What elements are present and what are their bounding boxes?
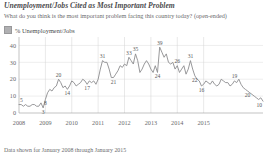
x-tick-label: 2008 bbox=[13, 119, 25, 126]
y-axis: 010203040 bbox=[10, 37, 19, 116]
vertical-grid-group bbox=[45, 37, 203, 113]
y-tick-label: 0 bbox=[13, 109, 16, 116]
data-point-label: 20 bbox=[56, 72, 62, 78]
chart-subtitle: What do you think is the most important … bbox=[4, 12, 264, 20]
x-tick-label: 2010 bbox=[66, 119, 78, 126]
data-point-label: 8 bbox=[44, 100, 47, 106]
x-tick-label: 2013 bbox=[145, 119, 157, 126]
data-point-labels: 53820141731213335392426223116192010 bbox=[20, 40, 262, 115]
chart-page: Unemployment/Jobs Cited as Most Importan… bbox=[0, 0, 266, 161]
data-point-label: 22 bbox=[192, 77, 198, 83]
chart-footnote: Data shown for January 2008 through Janu… bbox=[4, 147, 126, 153]
x-tick-label: 2015 bbox=[197, 119, 209, 126]
data-point-label: 20 bbox=[245, 92, 251, 98]
x-tick-label: 2012 bbox=[118, 119, 130, 126]
data-point-label: 5 bbox=[20, 97, 23, 103]
data-point-label: 3 bbox=[42, 109, 45, 115]
data-point-label: 17 bbox=[84, 85, 90, 91]
data-point-label: 16 bbox=[199, 87, 205, 93]
data-point-label: 24 bbox=[155, 73, 161, 79]
data-point-label: 14 bbox=[65, 90, 71, 96]
y-tick-label: 10 bbox=[10, 92, 16, 99]
data-point-label: 33 bbox=[126, 50, 132, 56]
data-point-label: 31 bbox=[100, 53, 106, 59]
data-point-label: 35 bbox=[133, 46, 139, 52]
data-point-label: 21 bbox=[111, 79, 117, 85]
plot-area: 010203040 200820092010201120122013201420… bbox=[0, 33, 266, 133]
page-title: Unemployment/Jobs Cited as Most Importan… bbox=[4, 1, 262, 10]
data-point-label: 39 bbox=[157, 40, 163, 46]
x-tick-label: 2009 bbox=[39, 119, 51, 126]
data-point-label: 10 bbox=[256, 102, 262, 108]
data-point-label: 19 bbox=[232, 73, 238, 79]
x-tick-label: 2011 bbox=[92, 119, 104, 126]
y-tick-label: 30 bbox=[10, 59, 16, 66]
data-point-label: 31 bbox=[188, 53, 194, 59]
y-tick-label: 20 bbox=[10, 75, 16, 82]
x-axis: 20082009201020112012201320142015 bbox=[13, 113, 263, 126]
line-chart-svg: 010203040 200820092010201120122013201420… bbox=[0, 33, 266, 133]
y-tick-label: 40 bbox=[10, 42, 16, 49]
data-point-label: 26 bbox=[174, 58, 180, 64]
x-tick-label: 2014 bbox=[171, 119, 183, 126]
